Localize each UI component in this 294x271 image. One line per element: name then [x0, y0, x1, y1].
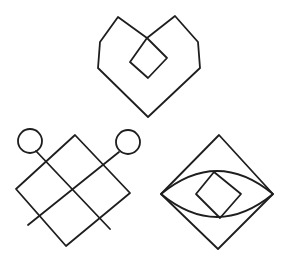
eye-outer-diamond [161, 135, 273, 249]
eye-inner-diamond [196, 172, 241, 218]
heart-outline [98, 16, 200, 117]
lattice-diamond-symbol [16, 129, 140, 246]
heart-inner-diamond [130, 38, 167, 78]
left-circle [18, 129, 42, 153]
heart-symbol [98, 16, 200, 117]
symbol-drawings [0, 0, 294, 271]
right-circle [116, 130, 140, 154]
eye-diamond-symbol [161, 135, 273, 249]
